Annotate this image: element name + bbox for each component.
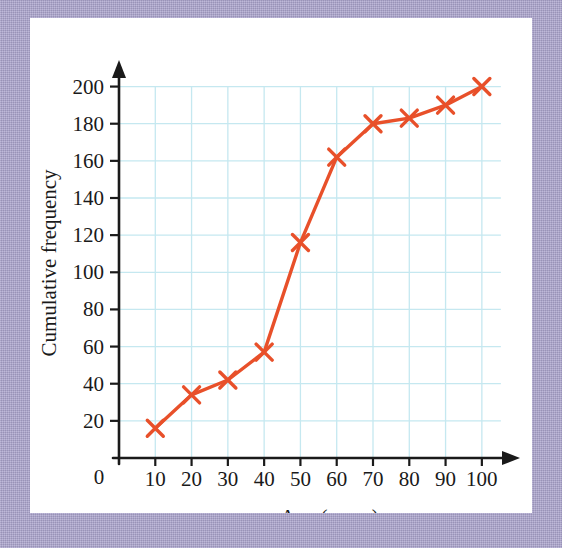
y-axis-tick-label: 80: [83, 297, 104, 321]
plot-background: [30, 18, 532, 513]
x-axis-tick-label: 90: [435, 467, 456, 491]
x-axis-tick-label: 50: [290, 467, 311, 491]
y-axis-tick-label: 120: [73, 223, 105, 247]
page-frame: 102030405060708090100 204060801001201401…: [0, 0, 562, 548]
y-axis-tick-label: 20: [83, 409, 104, 433]
x-axis-tick-label: 20: [181, 467, 202, 491]
y-axis-tick-label: 140: [73, 186, 105, 210]
y-axis-tick-label: 40: [83, 372, 104, 396]
y-axis-tick-label: 200: [73, 75, 105, 99]
y-axis-tick-label: 180: [73, 112, 105, 136]
figure-card: 102030405060708090100 204060801001201401…: [30, 18, 532, 513]
x-axis-tick-label: 30: [217, 467, 238, 491]
origin-label: 0: [94, 465, 105, 489]
x-axis-tick-label: 80: [399, 467, 420, 491]
y-axis-tick-label: 100: [73, 260, 105, 284]
x-axis-tick-label: 100: [466, 467, 498, 491]
x-axis-title: Age (years): [280, 505, 379, 513]
x-axis-tick-label: 60: [326, 467, 347, 491]
x-axis-tick-label: 70: [363, 467, 384, 491]
x-axis-tick-label: 10: [145, 467, 166, 491]
x-axis-tick-label: 40: [254, 467, 275, 491]
cumulative-frequency-chart: 102030405060708090100 204060801001201401…: [30, 18, 532, 513]
chart-svg: 102030405060708090100 204060801001201401…: [30, 18, 532, 513]
y-axis-tick-label: 60: [83, 335, 104, 359]
y-axis-tick-label: 160: [73, 149, 105, 173]
y-axis-title: Cumulative frequency: [37, 169, 61, 357]
